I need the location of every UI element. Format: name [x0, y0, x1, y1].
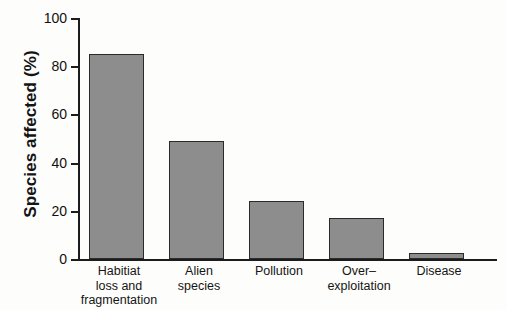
x-label-line: Disease — [379, 264, 499, 279]
bar-over-exploitation — [329, 218, 384, 259]
y-tick-label-80: 80 — [51, 57, 67, 75]
y-tick-60: 60 — [71, 114, 78, 116]
y-axis-title: Species affected (%) — [21, 14, 41, 254]
y-tick-label-100: 100 — [44, 9, 67, 27]
y-tick-40: 40 — [71, 163, 78, 165]
x-label-line: species — [139, 279, 259, 294]
bar-disease — [409, 253, 464, 259]
y-tick-80: 80 — [71, 66, 78, 68]
plot-area: 100 80 60 40 20 0 — [78, 18, 497, 260]
y-tick-100: 100 — [71, 18, 78, 20]
x-axis-line — [78, 259, 497, 261]
bar-pollution — [249, 201, 304, 259]
bar-habitat-loss — [89, 54, 144, 259]
y-tick-label-60: 60 — [51, 105, 67, 123]
chart-figure: Species affected (%) 100 80 60 40 20 0 H… — [0, 0, 507, 310]
bar-alien-species — [169, 141, 224, 259]
y-tick-label-40: 40 — [51, 154, 67, 172]
y-tick-label-20: 20 — [51, 202, 67, 220]
y-axis-line — [78, 18, 80, 260]
x-label-disease: Disease — [379, 264, 499, 279]
x-label-line: exploitation — [299, 279, 419, 294]
y-tick-20: 20 — [71, 211, 78, 213]
y-tick-0: 0 — [71, 259, 78, 261]
x-label-line: fragmentation — [59, 293, 179, 308]
